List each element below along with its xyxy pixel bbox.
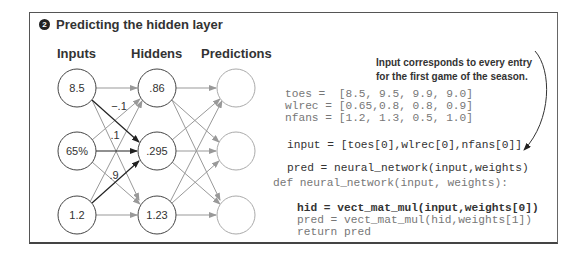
input-node-3: 1.2 <box>69 209 84 221</box>
annotation-line-2: for the first game of the season. <box>376 70 532 84</box>
input-node-1: 8.5 <box>69 82 84 94</box>
weight-label-3: .9 <box>109 169 118 181</box>
weight-label-2: .1 <box>110 129 119 141</box>
hidden-node-2: .295 <box>146 145 167 157</box>
annotation-line-1: Input corresponds to every entry <box>376 56 532 70</box>
code-input: input = [toes[0],wlrec[0],nfans[0]] <box>287 139 522 151</box>
hidden-node-1: .86 <box>149 82 164 94</box>
code-pred-call: pred = neural_network(input,weights) <box>287 162 529 174</box>
input-node-2: 65% <box>66 145 88 157</box>
weight-label-1: −.1 <box>111 100 127 112</box>
code-hid: hid = vect_mat_mul(input,weights[0]) <box>297 202 539 214</box>
annotation-note: Input corresponds to every entry for the… <box>376 56 532 84</box>
code-def: def neural_network(input, weights): <box>273 177 508 189</box>
code-return: return pred <box>297 226 371 238</box>
code-pred-inner: pred = vect_mat_mul(hid,weights[1]) <box>297 214 532 226</box>
code-toes: toes = [8.5, 9.5, 9.9, 9.0] <box>285 88 473 100</box>
code-wlrec: wlrec = [0.65,0.8, 0.8, 0.9] <box>285 100 473 112</box>
prediction-nodes <box>217 69 255 234</box>
edges-hidden-to-prediction <box>170 88 222 215</box>
hidden-node-3: 1.23 <box>146 209 167 221</box>
code-nfans: nfans = [1.2, 1.3, 0.5, 1.0] <box>285 112 473 124</box>
